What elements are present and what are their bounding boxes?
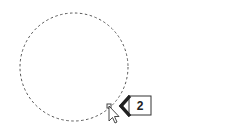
selection-circle[interactable] — [20, 13, 128, 121]
cursor-icon — [109, 106, 119, 123]
diagram-canvas — [0, 0, 231, 137]
callout-number: 2 — [129, 96, 151, 115]
